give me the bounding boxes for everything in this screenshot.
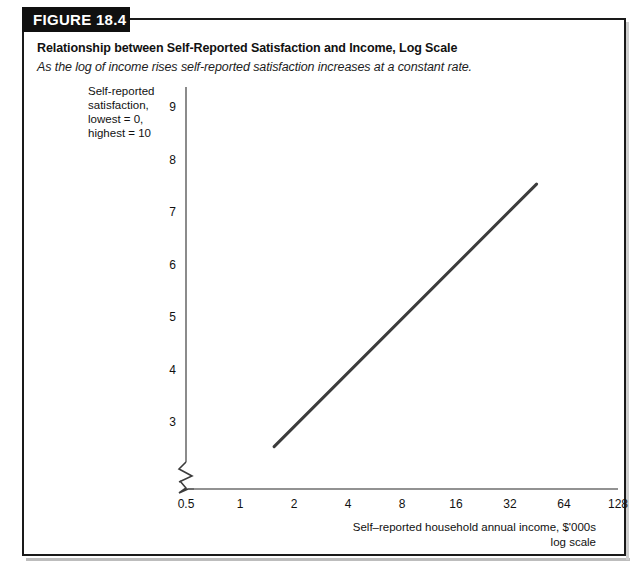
y-tick-label-7: 7 xyxy=(150,205,176,219)
x-axis-label-line-1: Self–reported household annual income, $… xyxy=(296,520,596,535)
figure-subtitle: As the log of income rises self-reported… xyxy=(37,60,472,74)
figure-frame-shadow-bottom xyxy=(26,558,630,561)
x-tick-label-4: 4 xyxy=(328,497,368,511)
x-tick-label-8: 8 xyxy=(382,497,422,511)
y-tick-label-4: 4 xyxy=(150,363,176,377)
x-tick-label-1: 1 xyxy=(220,497,260,511)
x-axis-label: Self–reported household annual income, $… xyxy=(296,520,596,550)
y-tick-label-9: 9 xyxy=(150,100,176,114)
x-tick-label-32: 32 xyxy=(490,497,530,511)
figure-container: FIGURE 18.4 Relationship between Self-Re… xyxy=(0,0,638,576)
figure-number-badge: FIGURE 18.4 xyxy=(22,7,130,32)
y-axis-label-line-4: highest = 10 xyxy=(88,126,180,140)
x-tick-label-128: 128 xyxy=(598,497,638,511)
y-axis-label-line-3: lowest = 0, xyxy=(88,112,180,126)
y-tick-label-8: 8 xyxy=(150,153,176,167)
y-tick-label-6: 6 xyxy=(150,258,176,272)
figure-title: Relationship between Self-Reported Satis… xyxy=(37,41,457,55)
x-tick-label-64: 64 xyxy=(544,497,584,511)
figure-frame-shadow-right xyxy=(626,22,629,560)
x-tick-label-0-5: 0.5 xyxy=(166,497,206,511)
y-tick-label-3: 3 xyxy=(150,415,176,429)
x-axis-label-line-2: log scale xyxy=(296,535,596,550)
x-tick-label-16: 16 xyxy=(436,497,476,511)
x-tick-label-2: 2 xyxy=(274,497,314,511)
y-axis-label-line-1: Self-reported xyxy=(88,84,180,98)
y-tick-label-5: 5 xyxy=(150,310,176,324)
